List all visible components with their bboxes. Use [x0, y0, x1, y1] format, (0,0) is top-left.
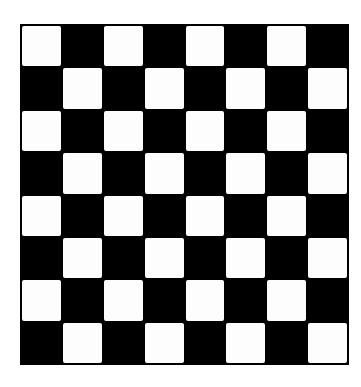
board-square-dark: [225, 25, 266, 67]
board-square-dark: [266, 322, 307, 364]
board-square-dark: [225, 195, 266, 237]
board-square-light: [144, 237, 185, 279]
board-square-light: [103, 110, 144, 152]
board-square-dark: [62, 195, 103, 237]
board-square-dark: [62, 279, 103, 321]
board-square-light: [103, 195, 144, 237]
board-square-light: [62, 152, 103, 194]
board-square-light: [225, 322, 266, 364]
board-square-dark: [103, 237, 144, 279]
board-square-light: [62, 322, 103, 364]
board-square-dark: [103, 152, 144, 194]
board-square-light: [103, 25, 144, 67]
board-square-light: [144, 152, 185, 194]
board-square-light: [21, 110, 62, 152]
board-square-dark: [185, 322, 226, 364]
board-square-light: [307, 322, 348, 364]
board-square-dark: [185, 237, 226, 279]
board-square-light: [62, 237, 103, 279]
board-square-light: [185, 110, 226, 152]
board-square-light: [185, 279, 226, 321]
board-square-light: [144, 67, 185, 109]
board-square-light: [21, 279, 62, 321]
board-square-light: [266, 195, 307, 237]
board-square-light: [307, 237, 348, 279]
board-square-dark: [21, 322, 62, 364]
board-square-dark: [266, 67, 307, 109]
board-square-dark: [266, 237, 307, 279]
board-square-dark: [103, 322, 144, 364]
board-square-dark: [307, 195, 348, 237]
board-square-dark: [62, 110, 103, 152]
board-square-light: [185, 195, 226, 237]
board-square-dark: [21, 67, 62, 109]
board-square-dark: [307, 110, 348, 152]
board-square-dark: [307, 279, 348, 321]
board-square-light: [307, 67, 348, 109]
board-square-dark: [144, 279, 185, 321]
board-square-light: [21, 195, 62, 237]
board-square-dark: [144, 195, 185, 237]
board-square-light: [266, 279, 307, 321]
board-square-dark: [225, 279, 266, 321]
board-square-dark: [185, 67, 226, 109]
checkerboard: [20, 24, 349, 365]
board-square-dark: [21, 237, 62, 279]
board-square-light: [62, 67, 103, 109]
board-square-dark: [225, 110, 266, 152]
board-square-dark: [103, 67, 144, 109]
board-square-dark: [62, 25, 103, 67]
board-square-light: [225, 152, 266, 194]
board-square-dark: [21, 152, 62, 194]
board-square-light: [225, 67, 266, 109]
board-square-light: [185, 25, 226, 67]
board-square-light: [266, 25, 307, 67]
board-square-dark: [144, 110, 185, 152]
board-square-light: [144, 322, 185, 364]
board-square-dark: [266, 152, 307, 194]
board-square-dark: [185, 152, 226, 194]
board-square-light: [225, 237, 266, 279]
board-square-light: [103, 279, 144, 321]
board-square-dark: [307, 25, 348, 67]
board-square-light: [21, 25, 62, 67]
board-square-light: [266, 110, 307, 152]
board-square-light: [307, 152, 348, 194]
board-square-dark: [144, 25, 185, 67]
